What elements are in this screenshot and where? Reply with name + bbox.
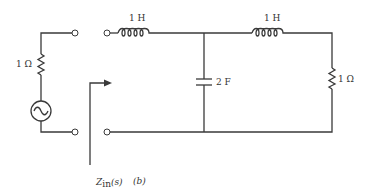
load-resistor-label: 1 Ω bbox=[338, 74, 354, 84]
source-resistor bbox=[38, 54, 44, 75]
figure-caption: (b) bbox=[133, 176, 146, 186]
wire-to-load bbox=[292, 33, 332, 68]
source-branch: 1 Ω bbox=[16, 33, 72, 132]
impedance-arrow-line bbox=[90, 83, 106, 165]
inductor-1-label: 1 H bbox=[129, 13, 146, 23]
capacitor-branch: 2 F bbox=[196, 33, 231, 132]
terminal-network-top bbox=[104, 30, 110, 36]
network-top: 1 H 1 H bbox=[110, 13, 332, 68]
load-branch: 1 Ω bbox=[110, 68, 354, 132]
inductor-1-icon bbox=[118, 29, 155, 37]
circuit-diagram: 1 Ω 1 H 1 H 2 F 1 Ω Zin(s) (b) bbox=[0, 0, 372, 196]
inductor-2-icon bbox=[252, 29, 292, 37]
arrowhead-icon bbox=[104, 80, 112, 87]
impedance-label: Zin(s) bbox=[95, 177, 123, 189]
bottom-return-wire bbox=[110, 89, 332, 132]
capacitor-label: 2 F bbox=[216, 77, 231, 87]
terminal-network-bottom bbox=[104, 129, 110, 135]
source-resistor-label: 1 Ω bbox=[16, 59, 32, 69]
source-top-wire bbox=[41, 33, 72, 54]
terminal-source-top bbox=[72, 30, 78, 36]
source-bottom-wire bbox=[41, 121, 72, 132]
sine-wave-icon bbox=[34, 107, 48, 115]
inductor-2-label: 1 H bbox=[264, 13, 281, 23]
terminal-source-bottom bbox=[72, 129, 78, 135]
load-resistor-icon bbox=[329, 68, 335, 89]
